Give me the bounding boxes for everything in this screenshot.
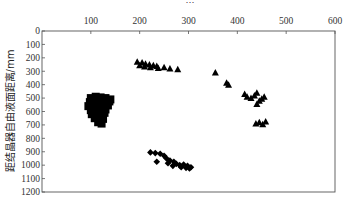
y-tick-label: 1100 [21,174,40,184]
triangle-marker [174,66,181,73]
triangle-marker [212,69,219,76]
y-tick-label: 300 [26,67,41,77]
y-tick-label: 200 [26,53,41,63]
y-tick-label: 900 [26,147,41,157]
square-marker [98,120,106,128]
triangle-marker [161,64,168,71]
y-axis: 0100200300400500600700800900100011001200 [21,26,45,197]
y-tick-label: 0 [35,26,40,36]
y-tick-label: 100 [26,40,41,50]
chart-title-cropped: … [186,0,195,5]
triangle-marker [262,118,269,125]
scatter-chart: … 100200300400500600 0100200300400500600… [0,0,345,201]
y-tick-label: 700 [26,120,41,130]
y-tick-label: 800 [26,134,41,144]
y-tick-label: 500 [26,93,41,103]
x-tick-label: 100 [84,16,99,26]
y-tick-label: 600 [26,107,41,117]
x-tick-label: 500 [279,16,294,26]
y-tick-label: 400 [26,80,41,90]
x-tick-label: 600 [328,16,343,26]
x-tick-label: 200 [133,16,148,26]
y-tick-label: 1200 [21,187,40,197]
diamond-marker [153,159,160,166]
y-axis-label: 距结晶器自由液面距离/mm [4,50,16,173]
triangle-marker [166,65,173,72]
y-tick-label: 1000 [21,160,40,170]
x-tick-label: 400 [230,16,245,26]
x-tick-label: 300 [181,16,196,26]
data-points [84,58,269,171]
